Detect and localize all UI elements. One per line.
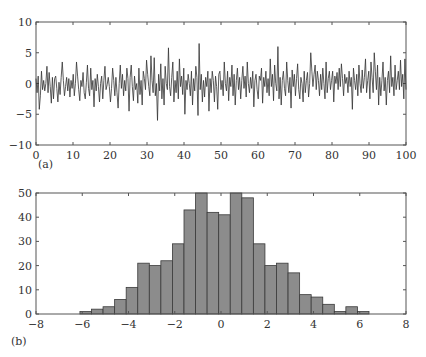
x-tick-label: 20 bbox=[103, 149, 117, 162]
y-tick-label: 0 bbox=[25, 78, 32, 91]
histogram-bar bbox=[288, 273, 300, 314]
panel-a-label: (a) bbox=[38, 158, 53, 171]
x-tick-label: 40 bbox=[177, 149, 191, 162]
histogram-bar bbox=[161, 261, 173, 314]
y-tick-label: 10 bbox=[18, 284, 32, 297]
histogram-bar bbox=[346, 307, 358, 314]
x-tick-label: 6 bbox=[356, 318, 363, 331]
histogram-bar bbox=[196, 193, 208, 314]
panel-a-time-series: 0102030405060708090100−10−50510 (a) bbox=[9, 16, 417, 171]
histogram-bar bbox=[300, 295, 312, 314]
x-tick-label: 4 bbox=[310, 318, 317, 331]
y-tick-label: −5 bbox=[16, 108, 32, 121]
y-tick-label: 20 bbox=[18, 260, 32, 273]
x-tick-label: −4 bbox=[120, 318, 136, 331]
histogram-bar bbox=[323, 304, 335, 314]
x-tick-label: 90 bbox=[362, 149, 376, 162]
histogram-bar bbox=[126, 287, 138, 314]
panel-b-histogram: −8−6−4−20246801020304050 (b) bbox=[11, 187, 410, 348]
histogram-bar bbox=[172, 244, 184, 314]
histogram-bar bbox=[149, 266, 161, 314]
y-tick-label: 40 bbox=[18, 211, 32, 224]
x-tick-label: 100 bbox=[396, 149, 417, 162]
figure-canvas: 0102030405060708090100−10−50510 (a) −8−6… bbox=[0, 0, 426, 357]
x-tick-label: 10 bbox=[66, 149, 80, 162]
y-tick-label: −10 bbox=[9, 139, 32, 152]
histogram-bar bbox=[207, 212, 219, 314]
x-tick-label: 2 bbox=[264, 318, 271, 331]
histogram-bar bbox=[277, 263, 289, 314]
histogram-bar bbox=[92, 309, 104, 314]
x-tick-label: −6 bbox=[74, 318, 90, 331]
histogram-bar bbox=[253, 244, 265, 314]
x-tick-label: 50 bbox=[214, 149, 228, 162]
x-tick-label: 30 bbox=[140, 149, 154, 162]
panel-b-label: (b) bbox=[11, 335, 27, 348]
x-tick-label: 60 bbox=[251, 149, 265, 162]
histogram-bar bbox=[242, 198, 254, 314]
histogram-bar bbox=[103, 307, 115, 314]
y-tick-label: 0 bbox=[25, 308, 32, 321]
panel-a-signal-line bbox=[36, 44, 406, 121]
histogram-bar bbox=[219, 215, 231, 314]
x-tick-label: −2 bbox=[167, 318, 183, 331]
y-tick-label: 30 bbox=[18, 235, 32, 248]
histogram-bar bbox=[311, 297, 323, 314]
y-tick-label: 5 bbox=[25, 47, 32, 60]
x-tick-label: 70 bbox=[288, 149, 302, 162]
histogram-bar bbox=[138, 263, 150, 314]
x-tick-label: 8 bbox=[403, 318, 410, 331]
histogram-bar bbox=[115, 299, 127, 314]
histogram-bar bbox=[265, 266, 277, 314]
x-tick-label: 80 bbox=[325, 149, 339, 162]
figure: 0102030405060708090100−10−50510 (a) −8−6… bbox=[0, 0, 426, 357]
x-tick-label: 0 bbox=[218, 318, 225, 331]
histogram-bar bbox=[184, 210, 196, 314]
y-tick-label: 10 bbox=[18, 16, 32, 29]
y-tick-label: 50 bbox=[18, 187, 32, 200]
panel-b-bars bbox=[80, 193, 369, 314]
histogram-bar bbox=[230, 193, 242, 314]
